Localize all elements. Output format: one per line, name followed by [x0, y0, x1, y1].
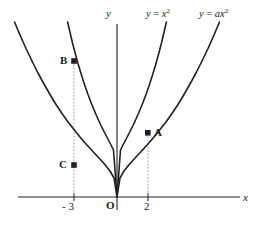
curve-label-wide-eq: =	[204, 8, 215, 19]
tick-label-2: 2	[144, 201, 150, 212]
curve-label-narrow-exp: 2	[167, 7, 171, 15]
plot-canvas	[0, 0, 258, 225]
x-axis-label: x	[243, 192, 248, 203]
y-axis-label: y	[106, 8, 111, 19]
parabola-figure: y x O - 3 2 y = x2 y = ax2 A B C	[0, 0, 258, 225]
tick-label-neg3: - 3	[62, 201, 74, 212]
origin-label: O	[106, 200, 115, 211]
point-marker-c[interactable]	[71, 162, 77, 168]
point-label-a: A	[154, 127, 162, 138]
point-label-b: B	[60, 55, 67, 66]
point-label-c: C	[59, 159, 67, 170]
dashed-droplines-group	[74, 61, 148, 196]
point-marker-b[interactable]	[71, 58, 77, 64]
point-marker-a[interactable]	[145, 130, 151, 136]
curve-label-narrow: y = x2	[146, 9, 170, 20]
curve-label-wide-exp: 2	[225, 7, 229, 15]
curve-label-narrow-eq: =	[151, 8, 162, 19]
curve-label-wide: y = ax2	[199, 9, 228, 20]
